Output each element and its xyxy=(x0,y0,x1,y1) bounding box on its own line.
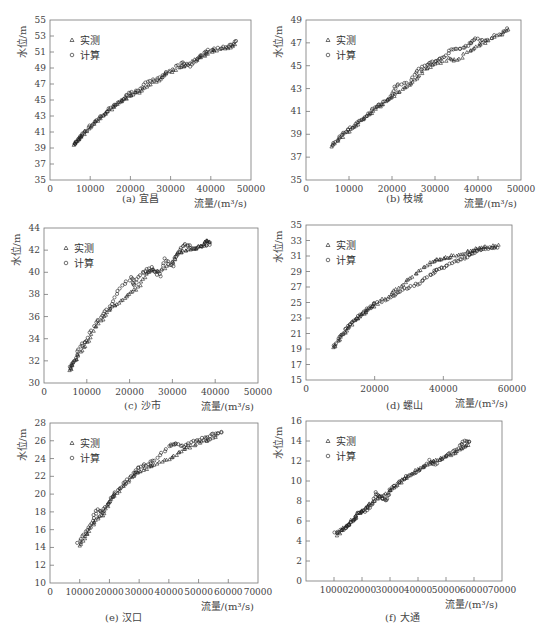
triangle-marker-icon xyxy=(326,439,330,443)
legend-computed: 计算 xyxy=(336,450,356,462)
x-tick-label: 50000 xyxy=(432,585,461,595)
x-tick-label: 10000 xyxy=(320,585,349,595)
y-tick-label: 8 xyxy=(296,496,302,506)
plot-svg: 0246810121416100002000030000400005000060… xyxy=(0,0,548,630)
x-tick-label: 60000 xyxy=(460,585,489,595)
y-tick-label: 4 xyxy=(296,536,302,546)
legend: 实测计算 xyxy=(326,435,356,462)
circle-marker-icon xyxy=(326,454,330,458)
x-tick-label: 40000 xyxy=(404,585,433,595)
y-tick-label: 2 xyxy=(296,556,302,566)
y-tick-label: 10 xyxy=(291,476,303,486)
y-tick-label: 12 xyxy=(291,456,302,466)
y-tick-label: 6 xyxy=(296,516,302,526)
legend-measured: 实测 xyxy=(336,435,356,447)
chart-f: 0246810121416100002000030000400005000060… xyxy=(0,0,548,630)
y-tick-label: 16 xyxy=(291,416,303,426)
y-tick-label: 14 xyxy=(291,436,303,446)
caption-f: (f) 大通 xyxy=(385,609,420,624)
y-axis-label: 水位/m xyxy=(272,426,284,459)
x-axis-label: 流量/(m³/s) xyxy=(445,598,498,610)
x-tick-label: 30000 xyxy=(376,585,405,595)
x-tick-label: 20000 xyxy=(348,585,377,595)
x-tick-label: 70000 xyxy=(488,585,517,595)
y-tick-label: 0 xyxy=(296,576,302,586)
